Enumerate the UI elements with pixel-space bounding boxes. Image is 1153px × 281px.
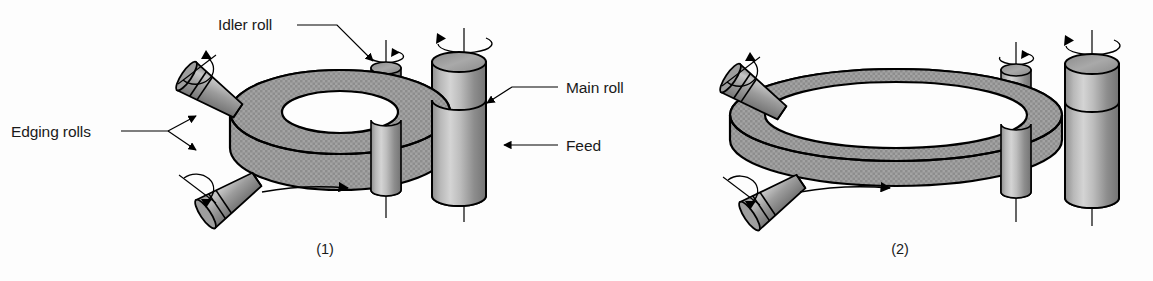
- label-idler-roll: Idler roll: [218, 16, 272, 33]
- leader-idler-roll: [297, 25, 373, 61]
- label-feed: Feed: [566, 137, 601, 154]
- label-edging-rolls: Edging rolls: [11, 123, 91, 140]
- leader-edging-rolls: [121, 116, 196, 150]
- workpiece-ring-panel-one: [230, 70, 450, 190]
- figure-canvas: Idler roll Edging rolls Main roll Feed (…: [0, 0, 1153, 281]
- idler-roll-front-segment-panel-one: [371, 120, 401, 196]
- leader-main-roll: [487, 87, 558, 103]
- panel-one: Idler roll Edging rolls Main roll Feed (…: [11, 16, 624, 257]
- caption-panel-two: (2): [891, 241, 909, 257]
- caption-panel-one: (1): [316, 241, 334, 257]
- ring-rolling-diagram: Idler roll Edging rolls Main roll Feed (…: [0, 0, 1153, 281]
- label-main-roll: Main roll: [566, 79, 624, 96]
- panel-two: (2): [717, 30, 1120, 257]
- idler-roll-front-segment-panel-two: [1001, 124, 1031, 198]
- main-roll-front-segment-panel-two: [1065, 102, 1119, 208]
- main-roll-front-segment-panel-one: [432, 100, 486, 206]
- feed-direction-arrow-panel-two: [800, 187, 890, 192]
